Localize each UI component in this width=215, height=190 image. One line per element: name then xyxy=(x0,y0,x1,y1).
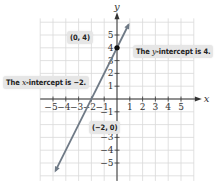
x-tick-label: −4 xyxy=(57,102,71,112)
y-tick-label: −4 xyxy=(100,145,114,155)
y-axis-arrow-icon xyxy=(115,12,120,19)
y-axis-label: y xyxy=(113,1,120,12)
x-tick-label: 3 xyxy=(153,102,159,112)
y-intercept-callout: The y-intercept is 4. xyxy=(133,45,213,58)
x-tick-label: 4 xyxy=(165,102,171,112)
y-tick-label: 1 xyxy=(108,81,114,91)
point-label-neg2-0: (−2, 0) xyxy=(89,121,120,134)
x-tick-label: 2 xyxy=(140,102,146,112)
x-axis-label: x xyxy=(204,93,210,104)
x-tick-label: −3 xyxy=(70,102,84,112)
x-tick-label: 1 xyxy=(127,102,133,112)
x-tick-label: −5 xyxy=(44,102,58,112)
x-tick-label: 5 xyxy=(178,102,184,112)
y-tick-label: −1 xyxy=(100,107,113,117)
point-marker xyxy=(114,45,119,50)
y-tick-label: −5 xyxy=(100,158,114,168)
y-tick-label: 2 xyxy=(108,68,114,78)
point-label-0-4: (0, 4) xyxy=(67,31,93,44)
y-tick-label: 4 xyxy=(108,43,114,53)
points xyxy=(114,45,119,50)
x-axis-arrow-icon xyxy=(195,97,202,102)
y-tick-label: 5 xyxy=(108,30,114,40)
graph: xy −5−4−3−2−112345−5−4−3−112345 xyxy=(0,0,215,190)
x-intercept-callout: The x-intercept is −2. xyxy=(3,76,89,89)
